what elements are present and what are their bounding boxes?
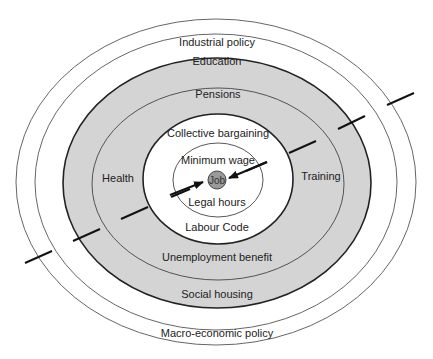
- label-labour-code: Labour Code: [185, 221, 249, 233]
- label-minimum-wage: Minimum wage: [181, 154, 255, 166]
- label-health: Health: [102, 172, 134, 184]
- label-legal-hours: Legal hours: [188, 196, 246, 208]
- label-education: Education: [193, 55, 242, 67]
- label-job: Job: [209, 175, 226, 186]
- policy-rings-diagram: Industrial policy Education Pensions Col…: [0, 0, 433, 359]
- label-collective-bargaining: Collective bargaining: [167, 127, 269, 139]
- label-industrial-policy: Industrial policy: [179, 36, 255, 48]
- label-training: Training: [301, 170, 340, 182]
- label-social-housing: Social housing: [181, 288, 253, 300]
- label-pensions: Pensions: [195, 88, 241, 100]
- label-unemployment-benefit: Unemployment benefit: [162, 251, 272, 263]
- label-macro-economic-policy: Macro-economic policy: [161, 327, 274, 339]
